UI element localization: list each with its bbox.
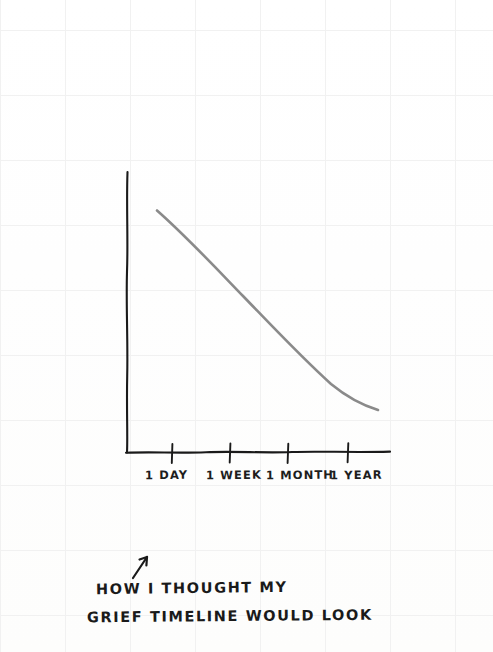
tick-1-month	[288, 444, 289, 463]
caption-arrow-icon	[133, 557, 147, 578]
caption-line-2: GRIEF TIMELINE WOULD LOOK	[87, 607, 373, 625]
tick-label-1-month: 1 MONTH	[266, 468, 334, 483]
tick-1-day	[172, 444, 173, 463]
tick-label-1-year: 1 YEAR	[330, 468, 383, 483]
tick-1-week	[230, 444, 231, 463]
tick-label-1-day: 1 DAY	[145, 468, 188, 482]
tick-1-year	[348, 443, 349, 462]
caption-line-1: HOW I THOUGHT MY	[96, 579, 288, 597]
grief-decline-line	[157, 211, 378, 411]
x-axis-line	[126, 452, 390, 453]
y-axis-line	[127, 172, 128, 453]
hand-drawn-chart	[0, 0, 493, 652]
tick-label-1-week: 1 WEEK	[206, 468, 262, 483]
chart-page: 1 DAY 1 WEEK 1 MONTH 1 YEAR HOW I THOUGH…	[0, 0, 493, 652]
